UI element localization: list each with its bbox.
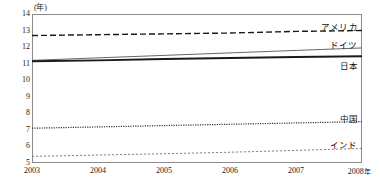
series-line — [32, 31, 362, 36]
series-label-インド: インド — [330, 138, 358, 150]
series-label-アメリカ: アメリカ — [321, 20, 358, 32]
series-line — [32, 148, 362, 156]
series-label-中国: 中国 — [340, 112, 358, 124]
chart-screenshot: (年) 141312111098765 20032004200520062007… — [0, 0, 380, 185]
series-label-ドイツ: ドイツ — [330, 38, 358, 50]
series-line — [32, 122, 362, 129]
series-label-日本: 日本 — [340, 59, 358, 71]
